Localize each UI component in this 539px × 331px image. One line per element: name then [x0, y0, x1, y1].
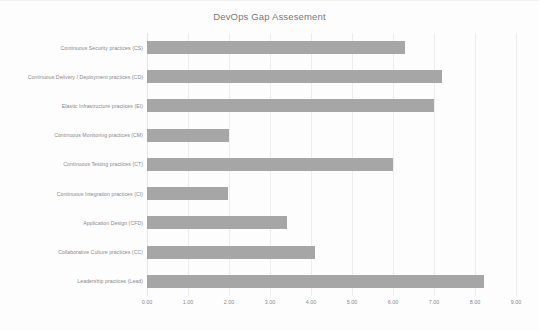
y-axis-label: Application Design (CFD) [0, 220, 143, 226]
x-axis-tick-label: 3.00 [250, 299, 290, 305]
bar [147, 246, 315, 259]
y-axis-label: Continuous Security practices (CS) [0, 45, 143, 51]
bar [147, 41, 405, 54]
bar-row [147, 267, 516, 296]
scan-edge-line [0, 0, 539, 1]
x-axis-tick-label: 5.00 [332, 299, 372, 305]
bar-row [147, 121, 516, 150]
y-axis-category-labels: Continuous Security practices (CS)Contin… [0, 33, 143, 296]
x-axis-tick-label: 6.00 [373, 299, 413, 305]
x-axis-tick-labels: 0.001.002.003.004.005.006.007.008.009.00 [147, 299, 516, 313]
bar-row [147, 91, 516, 120]
bar [147, 187, 228, 200]
y-axis-label: Continuous Delivery / Deployment practic… [0, 74, 143, 80]
gridline-9.00 [516, 33, 517, 296]
bar [147, 158, 393, 171]
bar-row [147, 179, 516, 208]
bar [147, 99, 434, 112]
bar-row [147, 208, 516, 237]
x-axis-tick-label: 9.00 [496, 299, 536, 305]
bar [147, 275, 484, 288]
bar [147, 129, 229, 142]
x-axis-tick-label: 4.00 [291, 299, 331, 305]
x-axis-tick-label: 7.00 [414, 299, 454, 305]
bar-row [147, 150, 516, 179]
bar [147, 70, 442, 83]
bar-row [147, 238, 516, 267]
y-axis-label: Elastic Infrastructure practices (EI) [0, 103, 143, 109]
y-axis-label: Continuous Integration practices (CI) [0, 191, 143, 197]
bar [147, 216, 287, 229]
bar-chart-figure: DevOps Gap Assesement Continuous Securit… [0, 0, 539, 331]
chart-title: DevOps Gap Assesement [0, 11, 539, 22]
y-axis-label: Leadership practices (Lead) [0, 278, 143, 284]
plot-area [147, 33, 516, 296]
y-axis-label: Continuous Testing practices (CT) [0, 161, 143, 167]
bar-row [147, 33, 516, 62]
x-axis-tick-label: 1.00 [168, 299, 208, 305]
x-axis-tick-label: 8.00 [455, 299, 495, 305]
x-axis-tick-label: 0.00 [127, 299, 167, 305]
y-axis-label: Collaborative Culture practices (CC) [0, 249, 143, 255]
y-axis-label: Continuous Monitoring practices (CM) [0, 132, 143, 138]
x-axis-tick-label: 2.00 [209, 299, 249, 305]
bar-row [147, 62, 516, 91]
